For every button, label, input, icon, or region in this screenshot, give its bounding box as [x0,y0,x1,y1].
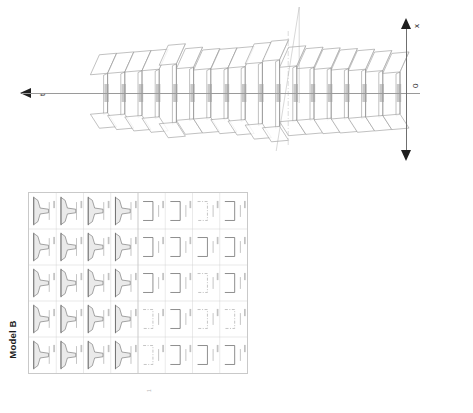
subplot-cell [198,309,219,329]
subplot-cell [143,345,164,365]
subplot-cell [143,201,164,221]
subplot-cell [88,197,109,225]
subplot-cell [170,201,191,221]
subplot-cell [61,197,82,225]
subplot-cell [225,201,246,221]
subplot-cell [143,273,164,293]
subplot-cell [61,341,82,369]
subplot-cell [170,309,191,329]
x-axis-line [406,27,407,159]
waterfall-panel: t x 0 [0,0,473,185]
subplot-cell [61,233,82,261]
figure-page: Model B t x 0 1 [0,0,473,413]
subplot-cell [198,237,219,257]
subplot-cell [61,269,82,297]
t-axis-line [22,93,420,94]
subplot-cell [170,237,191,257]
subplot-cell [198,345,219,365]
subplot-cell [88,233,109,261]
subplot-cell [34,305,55,333]
x-axis-arrow-up-icon [401,18,411,29]
subplot-cell [88,269,109,297]
subplot-cell [61,305,82,333]
subplot-cell [198,201,219,221]
subplot-cell [88,305,109,333]
subplot-cell [34,197,55,225]
subplot-cell [170,273,191,293]
model-caption: Model B [7,310,18,370]
subplot-cell [143,309,164,329]
origin-label: 0 [411,84,420,88]
x-axis-arrow-down-icon [401,150,411,161]
subplot-cell [115,341,136,369]
subplot-cell [225,309,246,329]
subplot-cell [115,305,136,333]
x-axis-label: x [412,24,421,28]
subplot-grid [28,192,248,374]
subplot-cell [225,273,246,293]
subplot-cell [115,269,136,297]
subplot-cell [115,197,136,225]
subplot-cell [225,237,246,257]
subplot-cell [88,341,109,369]
subplot-cell [115,233,136,261]
t-axis-label: t [38,94,47,96]
subplot-cell [198,273,219,293]
subplot-cell [34,341,55,369]
subplot-grid-canvas [29,193,247,373]
subplot-cell [34,233,55,261]
subplot-cell [170,345,191,365]
subplot-cell [34,269,55,297]
footer-mark: 1 [146,389,152,392]
subplot-cell [225,345,246,365]
subplot-cell [143,237,164,257]
